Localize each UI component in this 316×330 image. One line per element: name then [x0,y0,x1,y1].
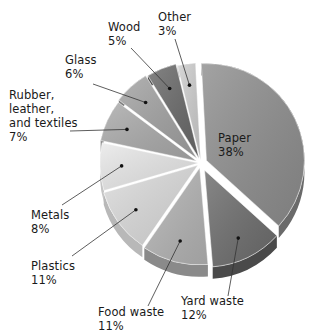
label-paper-name: Paper [218,131,251,145]
label-rubber-line2: leather, [9,102,78,116]
label-plastics-name: Plastics [31,259,75,273]
leader-dot [120,164,124,168]
label-glass-pct: 6% [65,67,97,81]
label-wood: Wood 5% [108,20,140,48]
label-other: Other 3% [158,10,191,38]
leader-dot [168,87,172,91]
label-rubber-pct: 7% [9,130,78,144]
label-rubber-line3: and textiles [9,116,78,130]
label-food: Food waste 11% [98,305,164,330]
label-plastics-pct: 11% [31,273,75,287]
label-wood-pct: 5% [108,34,140,48]
label-paper: Paper 38% [218,131,251,159]
label-rubber-line1: Rubber, [9,88,78,102]
label-paper-pct: 38% [218,145,251,159]
label-plastics: Plastics 11% [31,259,75,287]
label-metals: Metals 8% [31,208,69,236]
label-yard-name: Yard waste [181,294,244,308]
label-other-name: Other [158,10,191,24]
label-yard-pct: 12% [181,308,244,322]
leader-dot [188,83,192,87]
leader-dot [236,236,240,240]
label-food-name: Food waste [98,305,164,319]
label-yard: Yard waste 12% [181,294,244,322]
label-rubber: Rubber, leather, and textiles 7% [9,88,78,144]
leader-dot [144,101,148,105]
label-metals-pct: 8% [31,222,69,236]
label-other-pct: 3% [158,24,191,38]
leader-dot [178,239,182,243]
label-wood-name: Wood [108,20,140,34]
leader-dot [125,128,129,132]
leader-dot [134,208,138,212]
label-glass: Glass 6% [65,53,97,81]
label-metals-name: Metals [31,208,69,222]
label-glass-name: Glass [65,53,97,67]
label-food-pct: 11% [98,319,164,330]
pie-slices [100,63,304,267]
